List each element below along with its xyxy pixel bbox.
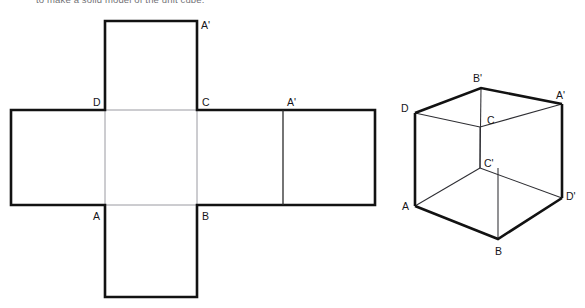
cube-label-d: D <box>401 102 409 114</box>
cube-label-a: A <box>402 200 409 212</box>
cube-labels: B' A' D C C' D' A B <box>401 72 576 257</box>
cube-label-d-prime: D' <box>566 190 576 202</box>
cube-label-c-prime: C' <box>484 157 494 169</box>
figure-canvas: to make a solid model of the unit cube. … <box>0 0 585 308</box>
cube-label-b: B <box>495 245 502 257</box>
cube-wireframe-figure: B' A' D C C' D' A B <box>0 0 585 308</box>
cube-label-b-prime: B' <box>473 72 482 84</box>
cube-label-a-prime: A' <box>556 89 565 101</box>
cube-label-c: C <box>487 114 495 126</box>
